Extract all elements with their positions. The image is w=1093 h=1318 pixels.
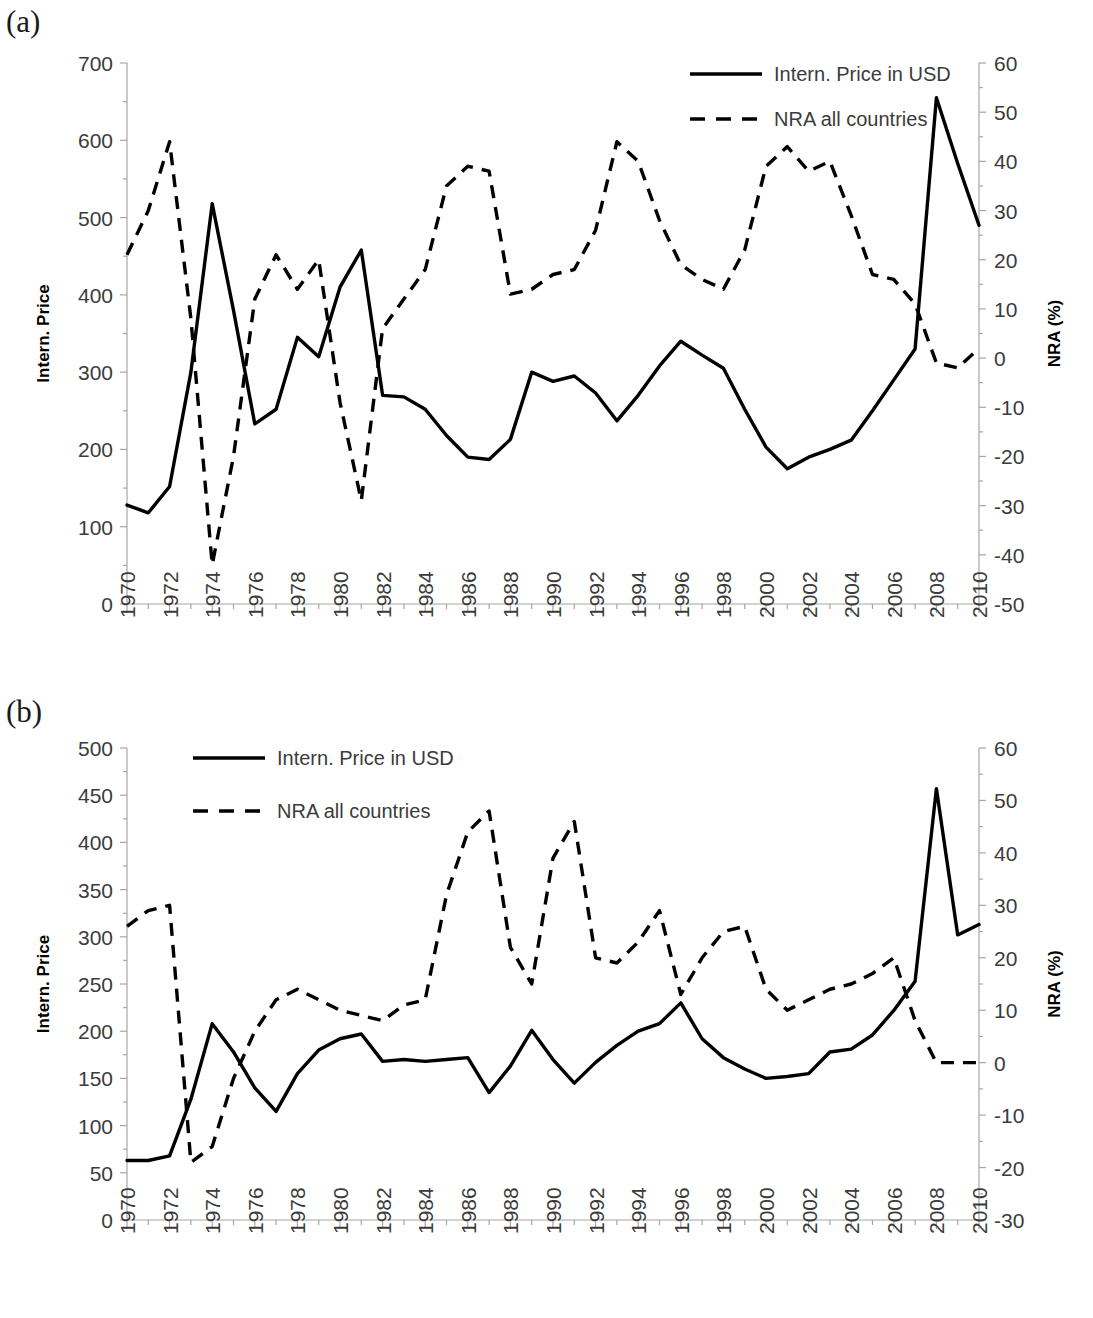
x-tick-label: 1972 (159, 1187, 182, 1234)
right-axis-title: NRA (%) (1045, 950, 1064, 1017)
right-tick-label: -30 (994, 495, 1024, 518)
x-tick-label-group: 1990 (542, 1187, 565, 1234)
left-tick-label: 450 (78, 784, 113, 807)
x-tick-label-group: 1972 (159, 571, 182, 618)
x-tick-label-group: 1974 (201, 571, 224, 618)
left-tick-label: 600 (78, 129, 113, 152)
x-tick-label: 1994 (627, 1187, 650, 1234)
x-tick-label: 1996 (670, 571, 693, 618)
right-tick-label: 50 (994, 101, 1017, 124)
x-tick-label-group: 1984 (414, 571, 437, 618)
x-tick-label: 1990 (542, 571, 565, 618)
x-tick-label-group: 2006 (883, 1187, 906, 1234)
x-tick-label-group: 1978 (286, 571, 309, 618)
x-tick-label: 1986 (457, 571, 480, 618)
x-tick-label-group: 1982 (372, 1187, 395, 1234)
right-tick-label: 20 (994, 947, 1017, 970)
left-tick-label: 50 (90, 1162, 113, 1185)
right-tick-label: 60 (994, 737, 1017, 760)
x-tick-label-group: 1982 (372, 571, 395, 618)
legend-label: Intern. Price in USD (774, 63, 951, 85)
x-tick-label: 1978 (286, 571, 309, 618)
right-tick-label: 40 (994, 150, 1017, 173)
x-tick-label: 1970 (116, 1187, 139, 1234)
x-tick-label-group: 1976 (244, 571, 267, 618)
x-tick-label-group: 1972 (159, 1187, 182, 1234)
x-tick-label: 1982 (372, 571, 395, 618)
x-tick-label: 1992 (585, 571, 608, 618)
left-axis-title: Intern. Price (34, 935, 53, 1033)
x-tick-label-group: 1980 (329, 1187, 352, 1234)
x-tick-label: 1976 (244, 1187, 267, 1234)
x-tick-label: 2008 (925, 1187, 948, 1234)
x-tick-label-group: 1988 (499, 571, 522, 618)
right-tick-label: 40 (994, 842, 1017, 865)
x-tick-label: 1988 (499, 1187, 522, 1234)
left-tick-label: 500 (78, 737, 113, 760)
chart-panel-b: (b) 500450400350300250200150100500605040… (0, 690, 1093, 1318)
x-tick-label-group: 2008 (925, 1187, 948, 1234)
x-tick-label-group: 2006 (883, 571, 906, 618)
left-tick-label: 400 (78, 284, 113, 307)
x-tick-label-group: 1994 (627, 1187, 650, 1234)
right-tick-label: -50 (994, 593, 1024, 616)
x-tick-label-group: 1978 (286, 1187, 309, 1234)
left-tick-label: 100 (78, 516, 113, 539)
x-tick-label: 2006 (883, 571, 906, 618)
right-tick-label: -10 (994, 1104, 1024, 1127)
x-tick-label: 1978 (286, 1187, 309, 1234)
x-tick-label: 1988 (499, 571, 522, 618)
x-tick-label: 2006 (883, 1187, 906, 1234)
x-tick-label-group: 2010 (968, 571, 991, 618)
x-tick-label-group: 1996 (670, 1187, 693, 1234)
x-tick-label: 2010 (968, 571, 991, 618)
left-tick-label: 100 (78, 1115, 113, 1138)
left-tick-label: 400 (78, 831, 113, 854)
right-tick-label: -20 (994, 1157, 1024, 1180)
right-tick-label: -40 (994, 544, 1024, 567)
left-axis-title: Intern. Price (34, 284, 53, 382)
x-tick-label: 2002 (798, 1187, 821, 1234)
x-tick-label: 1984 (414, 571, 437, 618)
legend-label: Intern. Price in USD (277, 747, 454, 769)
series-line-price (127, 98, 979, 513)
x-tick-label: 1974 (201, 571, 224, 618)
x-tick-label: 1970 (116, 571, 139, 618)
x-tick-label-group: 2000 (755, 571, 778, 618)
series-line-nra (127, 142, 979, 565)
x-tick-label-group: 1998 (712, 1187, 735, 1234)
left-tick-label: 0 (101, 1209, 113, 1232)
x-tick-label: 1986 (457, 1187, 480, 1234)
x-tick-label-group: 2004 (840, 1187, 863, 1234)
x-tick-label: 1994 (627, 571, 650, 618)
right-tick-label: 20 (994, 249, 1017, 272)
left-tick-label: 250 (78, 973, 113, 996)
right-tick-label: 30 (994, 894, 1017, 917)
x-tick-label: 1998 (712, 1187, 735, 1234)
legend-label: NRA all countries (774, 108, 927, 130)
left-axis-title-group: Intern. Price (34, 935, 53, 1033)
x-tick-label-group: 1976 (244, 1187, 267, 1234)
x-tick-label-group: 1970 (116, 571, 139, 618)
x-tick-label: 1974 (201, 1187, 224, 1234)
x-tick-label-group: 1984 (414, 1187, 437, 1234)
left-tick-label: 150 (78, 1067, 113, 1090)
x-tick-label-group: 1970 (116, 1187, 139, 1234)
x-tick-label-group: 1990 (542, 571, 565, 618)
x-tick-label-group: 1992 (585, 571, 608, 618)
x-tick-label: 2008 (925, 571, 948, 618)
x-tick-label: 1984 (414, 1187, 437, 1234)
x-tick-label: 2010 (968, 1187, 991, 1234)
x-tick-label-group: 1986 (457, 1187, 480, 1234)
right-axis-title: NRA (%) (1045, 300, 1064, 367)
x-tick-label: 1998 (712, 571, 735, 618)
series-line-price (127, 789, 979, 1161)
x-tick-label: 1982 (372, 1187, 395, 1234)
x-tick-label-group: 2000 (755, 1187, 778, 1234)
right-tick-label: 30 (994, 200, 1017, 223)
right-tick-label: 10 (994, 298, 1017, 321)
chart-a-figure: 70060050040030020010006050403020100-10-2… (0, 0, 1093, 690)
x-tick-label-group: 1998 (712, 571, 735, 618)
x-tick-label-group: 2002 (798, 571, 821, 618)
right-axis-title-group: NRA (%) (1045, 300, 1064, 367)
